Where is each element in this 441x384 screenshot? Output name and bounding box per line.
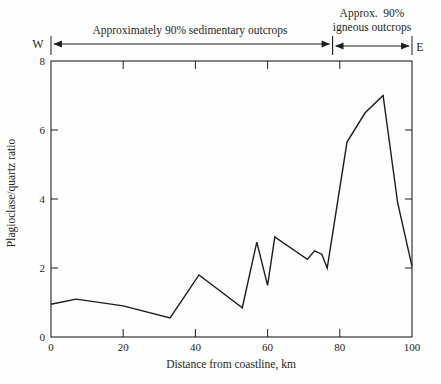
axis-ticks: 02040608010002468 (40, 55, 421, 353)
y-tick-label: 4 (40, 193, 46, 205)
sedimentary-annotation: Approximately 90% sedimentary outcrops (92, 24, 288, 37)
plagioclase-quartz-chart: Approximately 90% sedimentary outcrops A… (0, 0, 441, 384)
ratio-line-series (51, 96, 412, 319)
plot-frame (51, 61, 412, 337)
y-tick-label: 0 (40, 331, 46, 343)
figure-container: Approximately 90% sedimentary outcrops A… (0, 0, 441, 384)
x-tick-label: 20 (118, 341, 130, 353)
data-series (51, 96, 412, 319)
x-tick-label: 40 (190, 341, 202, 353)
igneous-annotation-line1: Approx. 90% (340, 7, 405, 20)
x-axis-title: Distance from coastline, km (166, 358, 296, 371)
x-tick-label: 0 (48, 341, 54, 353)
east-label: E (416, 40, 423, 54)
y-tick-label: 6 (40, 124, 46, 136)
y-axis-title: Plagioclase/quartz ratio (5, 139, 18, 248)
west-label: W (32, 37, 44, 51)
x-tick-label: 80 (334, 341, 346, 353)
igneous-annotation-line2: igneous outcrops (333, 21, 412, 34)
y-tick-label: 2 (40, 262, 46, 274)
y-tick-label: 8 (40, 55, 46, 67)
extent-arrows (51, 36, 412, 55)
x-tick-label: 60 (262, 341, 274, 353)
x-tick-label: 100 (404, 341, 421, 353)
